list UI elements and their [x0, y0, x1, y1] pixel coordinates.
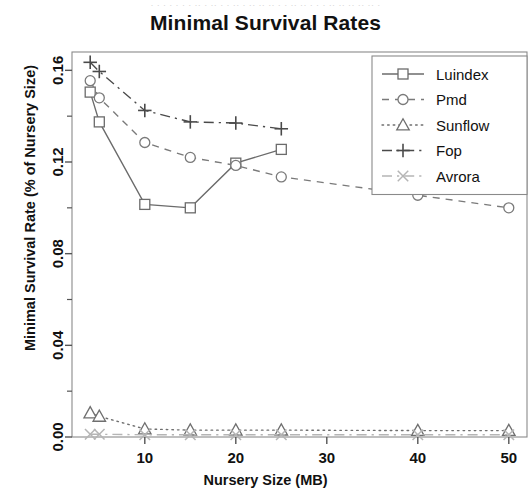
series-point-pmd: [504, 203, 514, 213]
chart-page: · · · · · · · ·· · ·· · · ·· · ·· ·· ·· …: [0, 0, 531, 502]
series-point-luindex: [140, 199, 150, 209]
legend-label-pmd[interactable]: Pmd: [436, 91, 467, 108]
series-point-sunflow: [84, 407, 97, 418]
series-point-pmd: [231, 160, 241, 170]
y-axis-label: Minimal Survival Rate (% of Nursery Size…: [22, 18, 38, 398]
legend-label-fop[interactable]: Fop: [436, 142, 462, 159]
series-point-pmd: [94, 93, 104, 103]
x-tick-label: 50: [500, 449, 517, 466]
legend-label-avrora[interactable]: Avrora: [436, 168, 481, 185]
series-point-luindex: [276, 144, 286, 154]
series-line-fop: [90, 62, 281, 128]
series-point-pmd: [276, 172, 286, 182]
legend-marker-pmd: [398, 95, 408, 105]
y-tick-label: 0.00: [49, 422, 66, 451]
series-point-pmd: [85, 76, 95, 86]
series-point-luindex: [185, 203, 195, 213]
legend-marker-luindex: [398, 69, 408, 79]
series-point-luindex: [94, 117, 104, 127]
series-point-sunflow: [139, 423, 152, 434]
series-point-fop: [229, 116, 243, 130]
legend-label-luindex[interactable]: Luindex: [436, 66, 489, 83]
y-tick-label: 0.08: [49, 239, 66, 268]
x-tick-label: 10: [136, 449, 153, 466]
y-tick-label: 0.12: [49, 147, 66, 176]
chart-plot-area: 0.000.040.080.120.161020304050LuindexPmd…: [0, 0, 531, 502]
series-point-pmd: [140, 138, 150, 148]
legend-label-sunflow[interactable]: Sunflow: [436, 117, 490, 134]
y-tick-label: 0.04: [49, 330, 66, 360]
x-tick-label: 40: [409, 449, 426, 466]
x-tick-label: 30: [318, 449, 335, 466]
series-point-luindex: [85, 87, 95, 97]
y-tick-label: 0.16: [49, 56, 66, 85]
x-axis-label: Nursery Size (MB): [0, 472, 531, 488]
series-line-sunflow: [90, 413, 509, 431]
series-point-fop: [184, 115, 198, 128]
x-tick-label: 20: [227, 449, 244, 466]
series-point-fop: [275, 122, 289, 135]
series-point-fop: [138, 104, 152, 118]
series-line-luindex: [90, 92, 281, 208]
series-point-pmd: [185, 152, 195, 162]
